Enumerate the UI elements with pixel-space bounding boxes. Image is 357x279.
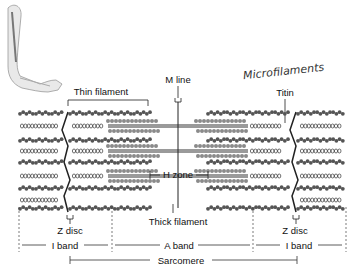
thin-filament xyxy=(68,185,152,190)
thin-filament xyxy=(68,137,152,142)
thin-filament xyxy=(206,137,290,142)
titin-coil xyxy=(20,174,57,178)
titin-coil xyxy=(300,174,341,178)
thin-filament xyxy=(18,110,63,115)
m-line-marker xyxy=(175,86,181,102)
i-band-right-label: I band xyxy=(286,240,312,251)
a-band-label: A band xyxy=(164,240,194,251)
m-line-label: M line xyxy=(165,74,190,85)
arm-illustration xyxy=(8,5,62,92)
sarcomere-label: Sarcomere xyxy=(158,255,204,266)
thin-filament xyxy=(206,205,290,210)
thin-filament xyxy=(296,185,345,190)
thin-filament xyxy=(296,205,345,210)
titin-label: Titin xyxy=(276,87,294,98)
thin-filament xyxy=(18,137,63,142)
thick-filament xyxy=(106,144,248,158)
thin-filament xyxy=(18,205,63,210)
handwritten-note: Microfilaments xyxy=(243,61,325,82)
titin-coil xyxy=(300,198,341,202)
h-zone-label: H zone xyxy=(163,169,193,180)
thin-filament xyxy=(68,110,152,115)
titin-coil xyxy=(20,198,57,202)
thin-filament-label: Thin filament xyxy=(74,86,129,97)
titin-coil xyxy=(72,124,102,128)
thin-filament-bracket xyxy=(68,100,148,106)
thin-filament xyxy=(68,205,152,210)
thick-filament xyxy=(106,119,248,133)
thin-filament xyxy=(18,159,63,164)
titin-coil xyxy=(250,174,280,178)
thin-filament xyxy=(18,185,63,190)
titin-coil xyxy=(300,124,341,128)
z-disc-left-label: Z disc xyxy=(57,225,83,236)
thick-filament-label: Thick filament xyxy=(149,216,208,227)
z-disc-right-label: Z disc xyxy=(282,225,308,236)
thin-filament xyxy=(206,185,290,190)
titin-coil xyxy=(20,149,57,153)
titin-coil xyxy=(250,124,280,128)
thin-filament xyxy=(206,159,290,164)
titin-coil xyxy=(72,149,102,153)
thin-filament xyxy=(68,159,152,164)
titin-coil xyxy=(300,149,341,153)
filament-array xyxy=(18,110,345,210)
titin-coil xyxy=(20,124,57,128)
thin-filament xyxy=(296,137,345,142)
titin-coil xyxy=(250,149,280,153)
thin-filament xyxy=(296,159,345,164)
thin-filament xyxy=(296,110,345,115)
thin-filament xyxy=(206,110,290,115)
titin-coil xyxy=(72,174,102,178)
i-band-left-label: I band xyxy=(52,240,78,251)
sarcomere-diagram: Microfilaments Thin filament M line Titi… xyxy=(0,0,357,279)
